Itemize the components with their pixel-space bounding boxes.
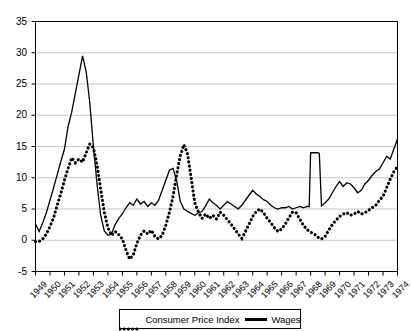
legend-label-consumer-price-index: Consumer Price Index bbox=[145, 314, 239, 325]
y-axis-tick-label: 10 bbox=[3, 172, 27, 183]
y-axis-tick-label: 5 bbox=[3, 203, 27, 214]
legend-swatch-dotted-icon bbox=[119, 317, 141, 321]
y-axis-tick-label: 20 bbox=[3, 109, 27, 120]
y-axis-ticks bbox=[32, 22, 36, 272]
legend-swatch-solid-icon bbox=[245, 318, 267, 321]
chart-legend: Consumer Price Index Wages bbox=[119, 309, 301, 329]
legend-item-wages: Wages bbox=[245, 314, 300, 325]
legend-item-consumer-price-index: Consumer Price Index bbox=[119, 314, 239, 325]
series-line-consumer-price-index bbox=[36, 144, 398, 259]
y-axis-tick-label: -5 bbox=[3, 266, 27, 277]
gridlines bbox=[36, 53, 398, 241]
x-axis-ticks bbox=[36, 272, 398, 276]
y-axis-tick-label: 25 bbox=[3, 78, 27, 89]
y-axis-tick-label: 35 bbox=[3, 16, 27, 27]
legend-label-wages: Wages bbox=[271, 314, 300, 325]
y-axis-tick-label: 30 bbox=[3, 47, 27, 58]
y-axis-tick-label: 15 bbox=[3, 141, 27, 152]
y-axis-tick-label: 0 bbox=[3, 234, 27, 245]
